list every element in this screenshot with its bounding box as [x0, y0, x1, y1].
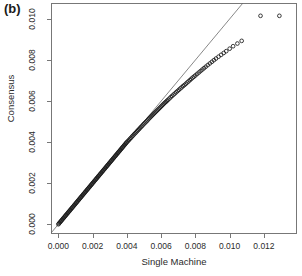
y-tick-label-0: 0.000 [18, 210, 46, 238]
figure-panel-b: (b) Consensus Single Machine 0.0000.0020… [0, 0, 302, 276]
y-tick-label-2: 0.004 [18, 128, 46, 156]
x-tick-label-6: 0.012 [253, 241, 274, 251]
y-tick-label-5: 0.010 [18, 5, 46, 33]
x-tick-label-0: 0.000 [48, 241, 69, 251]
scatter-markers [57, 14, 282, 226]
x-tick-label-1: 0.002 [82, 241, 103, 251]
plot-frame-rect [52, 4, 297, 234]
y-tick-label-4: 0.008 [18, 46, 46, 74]
x-tick-label-3: 0.006 [151, 241, 172, 251]
x-tick-marks [59, 234, 265, 239]
y-tick-marks [47, 20, 52, 225]
data-point [228, 47, 232, 51]
x-tick-label-5: 0.010 [219, 241, 240, 251]
x-tick-label-2: 0.004 [116, 241, 137, 251]
y-tick-label-3: 0.006 [18, 87, 46, 115]
data-point [259, 14, 263, 18]
y-tick-label-1: 0.002 [18, 169, 46, 197]
data-points-group [57, 14, 282, 226]
x-tick-label-4: 0.008 [185, 241, 206, 251]
plot-frame [52, 4, 297, 234]
data-point [278, 14, 282, 18]
data-point [236, 42, 240, 46]
data-point [231, 44, 235, 48]
data-point [240, 39, 244, 43]
